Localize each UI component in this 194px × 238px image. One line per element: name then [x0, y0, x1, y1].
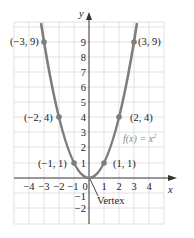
point-2-4	[116, 114, 122, 120]
label-m1-1: (−1, 1)	[38, 158, 67, 170]
x-tick-1: 1	[101, 181, 106, 192]
vertex-label: Vertex	[97, 195, 125, 206]
y-tick-3: 3	[81, 127, 86, 138]
x-tick-labels: −4 −3 −2 −1 0 1 2 3 4	[23, 181, 152, 192]
x-axis-arrow-icon	[168, 175, 177, 181]
x-tick-m4: −4	[23, 181, 35, 192]
vertex-pointer	[90, 179, 98, 196]
label-1-1: (1, 1)	[113, 158, 136, 170]
y-tick-4: 4	[81, 112, 87, 123]
y-tick-9: 9	[81, 37, 86, 48]
y-axis-label: y	[78, 8, 84, 19]
x-tick-m3: −3	[38, 181, 49, 192]
point-m2-4	[56, 114, 62, 120]
label-3-9: (3, 9)	[138, 36, 161, 48]
y-tick-1: 1	[81, 158, 86, 169]
x-tick-m1: −1	[67, 181, 78, 192]
y-tick-m2: −2	[75, 203, 86, 214]
x-axis-label: x	[167, 184, 173, 195]
point-m1-1	[71, 160, 77, 166]
y-tick-8: 8	[81, 52, 86, 63]
label-m2-4: (−2, 4)	[24, 112, 53, 124]
function-label: f(x) = x2	[123, 132, 157, 145]
x-tick-0: 0	[82, 181, 87, 192]
x-tick-2: 2	[116, 181, 121, 192]
y-tick-6: 6	[81, 82, 86, 93]
point-3-9	[131, 39, 137, 45]
y-tick-7: 7	[81, 67, 86, 78]
label-2-4: (2, 4)	[130, 112, 153, 124]
y-axis-arrow-icon	[86, 12, 92, 20]
point-m3-9	[41, 39, 47, 45]
label-m3-9: (−3, 9)	[10, 36, 39, 48]
y-tick-m1: −1	[75, 191, 86, 202]
function-label-base: f(x) = x	[123, 133, 154, 145]
x-tick-3: 3	[131, 181, 136, 192]
function-label-exponent: 2	[153, 132, 157, 140]
y-tick-5: 5	[81, 97, 86, 108]
x-tick-4: 4	[146, 181, 152, 192]
y-tick-2: 2	[81, 142, 86, 153]
parabola-chart: y x 9 8 7 6 5 4 3 2 1 −1 −2 −4 −3 −2 −1 …	[0, 0, 194, 238]
point-1-1	[101, 160, 107, 166]
x-tick-m2: −2	[53, 181, 64, 192]
